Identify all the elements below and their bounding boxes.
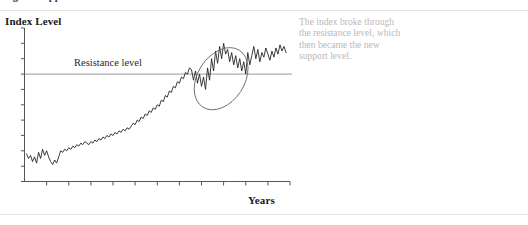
figure-container: Figure Support and resistance levels Ind… [0,0,528,225]
breakout-annotation-text: The index broke through the resistance l… [299,16,407,62]
breakout-ellipse [183,38,259,120]
y-axis-ticks [21,28,25,182]
resistance-level-label: Resistance level [74,57,142,68]
footer-divider [0,214,528,215]
chart-plot-area [0,0,528,225]
axes-group [21,28,290,186]
x-axis-ticks [47,182,290,186]
x-axis-title: Years [248,194,275,206]
